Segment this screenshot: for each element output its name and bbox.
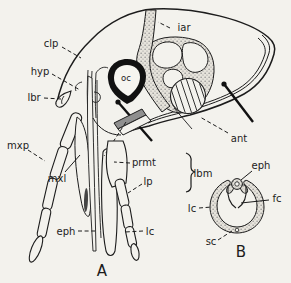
eph-b-label: eph — [252, 160, 271, 171]
fc-label: fc — [272, 193, 281, 204]
lp-label: lp — [143, 176, 152, 187]
iar-label: iar — [177, 22, 191, 33]
mxl-label: mxl — [48, 173, 66, 184]
prmt-label: prmt — [132, 157, 156, 168]
panel-b-caption: B — [236, 243, 246, 261]
sc-label: sc — [206, 236, 217, 247]
ant-label: ant — [231, 133, 247, 144]
lc-a-label: lc — [146, 226, 154, 237]
lbm-label: lbm — [194, 168, 213, 179]
mxp-label: mxp — [7, 140, 29, 151]
lc-b-label: lc — [188, 203, 196, 214]
panel-a-caption: A — [97, 262, 108, 280]
hyp-label: hyp — [31, 66, 50, 77]
lbr-label: lbr — [27, 92, 41, 103]
salivary-canal-notch — [235, 228, 239, 232]
clp-label: clp — [44, 38, 59, 49]
eph-a-label: eph — [57, 226, 76, 237]
oc-label: oc — [121, 73, 131, 83]
eph-circle-core — [235, 182, 239, 186]
insect-head-figure: oc — [0, 0, 291, 283]
figure-page: oc — [0, 0, 291, 283]
